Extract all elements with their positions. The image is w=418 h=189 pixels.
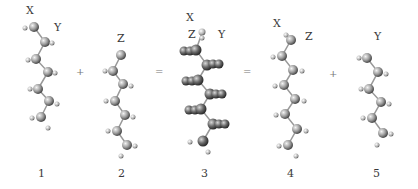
label-1-y: Y — [54, 22, 61, 33]
structure-number-1: 1 — [38, 167, 45, 180]
structure-number-4: 4 — [287, 167, 294, 180]
label-3-z: Z — [188, 29, 196, 40]
operator-equals-2: = — [243, 66, 251, 77]
label-2-z: Z — [117, 33, 125, 44]
molecule-2 — [103, 50, 138, 159]
molecule-1 — [23, 22, 60, 131]
label-3-y: Y — [218, 29, 225, 40]
operator-plus-1: + — [76, 66, 84, 77]
structure-number-5: 5 — [373, 167, 380, 180]
label-4-x: X — [273, 18, 281, 29]
label-1-x: X — [26, 5, 34, 16]
operator-equals-1: = — [155, 66, 163, 77]
molecule-5 — [357, 53, 394, 148]
operator-plus-2: + — [329, 68, 337, 79]
label-4-z: Z — [305, 31, 313, 42]
structure-number-2: 2 — [118, 167, 125, 180]
molecule-diagram — [0, 0, 418, 189]
label-5-y: Y — [374, 31, 381, 42]
structure-number-3: 3 — [201, 167, 208, 180]
label-3-x: X — [186, 12, 194, 23]
molecule-4 — [271, 33, 309, 159]
molecule-3 — [180, 29, 230, 155]
